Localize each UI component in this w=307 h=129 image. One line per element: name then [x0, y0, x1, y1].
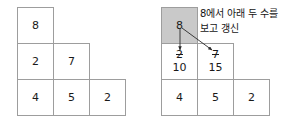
- cell-old-value: 2: [176, 49, 183, 61]
- cell-value: 2: [104, 92, 111, 104]
- cell-value: 4: [176, 92, 183, 104]
- pyramid-before: 8 2 7 4 5 2: [17, 7, 126, 116]
- pyramid-row: 2 10 7 15: [161, 43, 270, 80]
- cell-value: 15: [209, 62, 223, 74]
- pyramid-row: 4 5 2: [17, 79, 126, 116]
- pyramid-cell[interactable]: 4: [17, 79, 54, 116]
- cell-value: 7: [68, 56, 75, 68]
- pyramid-cell[interactable]: 2: [233, 79, 270, 116]
- pyramid-cell-highlighted[interactable]: 8: [161, 7, 198, 44]
- cell-value: 5: [212, 92, 219, 104]
- cell-old-value: 7: [212, 49, 219, 61]
- pyramid-cell[interactable]: 2: [17, 43, 54, 80]
- cell-value: 10: [173, 62, 187, 74]
- cell-value: 5: [68, 92, 75, 104]
- pyramid-cell[interactable]: 8: [17, 7, 54, 44]
- cell-value: 8: [32, 20, 39, 32]
- pyramid-cell[interactable]: 4: [161, 79, 198, 116]
- pyramid-row: 2 7: [17, 43, 126, 80]
- annotation-line-2: 보고 갱신: [200, 22, 304, 37]
- cell-value: 2: [32, 56, 39, 68]
- pyramid-cell[interactable]: 2 10: [161, 43, 198, 80]
- annotation-note: 8에서 아래 두 수를 보고 갱신: [200, 7, 304, 36]
- pyramid-cell[interactable]: 5: [53, 79, 90, 116]
- pyramid-row: 8: [17, 7, 126, 44]
- annotation-line-1: 8에서 아래 두 수를: [200, 7, 304, 22]
- pyramid-cell[interactable]: 5: [197, 79, 234, 116]
- cell-value: 8: [176, 20, 183, 32]
- pyramid-cell[interactable]: 2: [89, 79, 126, 116]
- cell-value: 2: [248, 92, 255, 104]
- diagram-canvas: 8 2 7 4 5 2 8: [0, 0, 307, 129]
- cell-value: 4: [32, 92, 39, 104]
- pyramid-row: 4 5 2: [161, 79, 270, 116]
- pyramid-cell[interactable]: 7 15: [197, 43, 234, 80]
- pyramid-cell[interactable]: 7: [53, 43, 90, 80]
